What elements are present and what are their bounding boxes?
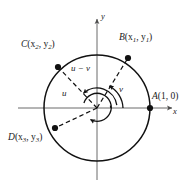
point-label-B: B(x1, y1) <box>119 33 152 44</box>
point-label-D-name: D <box>8 132 15 142</box>
point-B-dot <box>125 55 131 61</box>
radius-to-D <box>55 108 97 128</box>
point-label-C-coords: (x2, y2) <box>27 39 54 49</box>
point-D-x-var: x3 <box>18 132 26 142</box>
x-axis-label: x <box>173 107 177 116</box>
point-label-A: A(1, 0) <box>152 92 178 102</box>
point-D-dot <box>52 125 58 131</box>
angle-label-u-minus-v: u − v <box>71 64 90 73</box>
angle-label-v: v <box>119 85 123 94</box>
angle-arcs-group <box>83 86 123 121</box>
point-label-B-coords: (x1, y1) <box>125 32 152 42</box>
y-axis-label-text: y <box>101 11 105 21</box>
y-axis-label: y <box>101 12 105 21</box>
angle-u-minus-v-text: u − v <box>71 63 90 73</box>
point-D-y-var: y3 <box>31 132 39 142</box>
point-label-A-coords: (1, 0) <box>158 91 179 101</box>
point-label-C: C(x2, y2) <box>21 40 55 51</box>
point-C-x-var: x2 <box>31 39 39 49</box>
radius-to-B <box>97 58 128 108</box>
angle-label-u: u <box>62 89 67 98</box>
point-A-y-value: 0 <box>170 91 175 101</box>
point-label-D: D(x3, y3) <box>8 133 42 144</box>
point-B-x-var: x1 <box>128 32 136 42</box>
point-C-dot <box>55 64 61 70</box>
x-axis-label-text: x <box>173 106 177 116</box>
angle-u-text: u <box>62 88 67 98</box>
point-A-x-value: 1 <box>161 91 166 101</box>
unit-circle-figure: A(1, 0) B(x1, y1) C(x2, y2) D(x3, y3) u … <box>0 0 195 187</box>
point-A-dot <box>147 105 153 111</box>
point-C-y-var: y2 <box>43 39 51 49</box>
point-B-y-var: y1 <box>141 32 149 42</box>
angle-v-text: v <box>119 84 123 94</box>
point-label-D-coords: (x3, y3) <box>15 132 42 142</box>
angle-arc-u-tail <box>110 106 111 108</box>
